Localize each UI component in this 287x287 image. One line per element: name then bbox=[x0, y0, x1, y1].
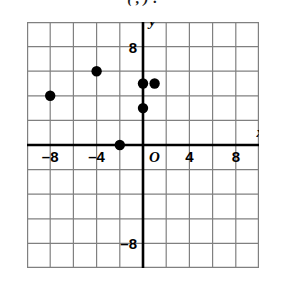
x-tick-label: –8 bbox=[42, 148, 59, 165]
y-tick-label: –8 bbox=[120, 235, 137, 252]
data-point: (0, 3) bbox=[138, 103, 148, 113]
y-tick-label: 8 bbox=[129, 39, 137, 56]
plot-svg: –8–4488–8O xy (–8, 4)(–4, 6)(–2, 0)(0, 3… bbox=[27, 22, 259, 268]
x-tick-label: –4 bbox=[88, 148, 105, 165]
y-axis-label: y bbox=[147, 22, 156, 29]
axis-letters: xy bbox=[147, 22, 259, 140]
coordinate-plane-screenshot: ( , ) ? –8–4488–8O xy (–8, 4)(–4, 6)(–2,… bbox=[0, 0, 287, 287]
x-tick-label: 4 bbox=[185, 148, 194, 165]
data-point: (0, 5) bbox=[138, 78, 148, 88]
top-caption-text: ( , ) ? bbox=[0, 0, 287, 7]
data-point: (–8, 4) bbox=[45, 91, 55, 101]
origin-label: O bbox=[149, 149, 160, 165]
x-axis-label: x bbox=[256, 124, 260, 140]
coordinate-plane-plot: –8–4488–8O xy (–8, 4)(–4, 6)(–2, 0)(0, 3… bbox=[27, 22, 259, 268]
x-tick-label: 8 bbox=[232, 148, 240, 165]
data-point: (–2, 0) bbox=[115, 140, 125, 150]
data-point: (–4, 6) bbox=[91, 66, 101, 76]
axes bbox=[27, 22, 259, 268]
data-point: (1, 5) bbox=[149, 78, 159, 88]
